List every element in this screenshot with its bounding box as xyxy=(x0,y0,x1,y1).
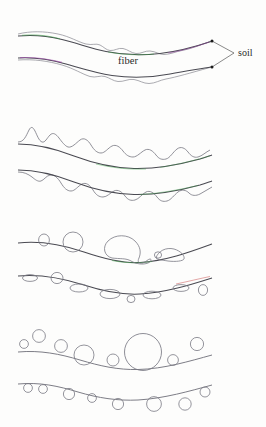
panel-2-rippled-interface xyxy=(18,127,212,201)
soil-label: soil xyxy=(238,47,253,58)
bead-u4 xyxy=(74,345,94,365)
flat-droplet-6 xyxy=(143,291,161,299)
fiber-label: fiber xyxy=(118,55,138,66)
figure-root: fiber soil xyxy=(0,0,266,427)
soil-endpoint-marker-upper xyxy=(211,40,214,43)
bead-l1 xyxy=(24,384,33,393)
bead-l2 xyxy=(39,385,48,394)
flat-droplet-5 xyxy=(127,295,135,302)
panel1-upper-line-base xyxy=(18,35,211,54)
flat-droplet-4 xyxy=(100,289,120,298)
bead-u2 xyxy=(33,330,46,343)
panel2-lower-envelope xyxy=(18,172,212,201)
bead-u5 xyxy=(107,354,119,366)
panel-3-droplet-interface xyxy=(18,232,212,303)
droplet-tiny-upper xyxy=(154,252,161,258)
bead-l3 xyxy=(63,388,74,399)
bead-l7 xyxy=(179,398,191,410)
bead-l8 xyxy=(200,387,210,397)
bead-u8 xyxy=(190,337,203,350)
panel1-upper-envelope xyxy=(18,32,210,55)
panel-4-bead-interface xyxy=(18,330,212,412)
panel2-upper-accent-green-2 xyxy=(160,156,210,168)
bead-u7 xyxy=(168,355,179,366)
panel2-upper-envelope xyxy=(18,127,210,159)
soil-leader-lower xyxy=(212,53,234,67)
bead-l4 xyxy=(88,394,97,403)
flat-droplet-8 xyxy=(198,285,207,296)
bead-u6-large xyxy=(125,334,162,371)
bead-u3 xyxy=(55,340,68,353)
soil-endpoint-marker-lower xyxy=(211,66,214,69)
panel4-lower-line-base xyxy=(18,383,212,400)
panel-1-smooth-interface: fiber soil xyxy=(18,32,253,84)
bead-u1 xyxy=(20,340,29,349)
soil-leader-upper xyxy=(212,41,234,53)
flat-droplet-7 xyxy=(173,285,189,292)
panel1-lower-line-base xyxy=(18,58,211,77)
fiber-soil-diagram: fiber soil xyxy=(0,0,266,427)
droplet-small-1 xyxy=(39,234,50,246)
flat-droplet-3 xyxy=(70,284,88,292)
